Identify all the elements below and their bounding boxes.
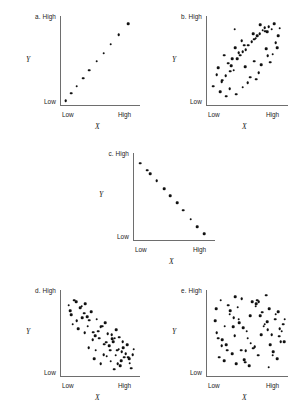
data-point <box>104 321 107 324</box>
panel-b-xlabel-high: High <box>266 112 279 118</box>
data-point <box>99 326 102 329</box>
data-point <box>95 318 98 321</box>
data-point <box>97 330 100 333</box>
data-point <box>224 325 227 328</box>
data-point <box>278 335 281 338</box>
data-point <box>221 339 224 342</box>
data-point <box>224 74 227 77</box>
data-point <box>260 333 263 336</box>
data-point <box>245 330 248 333</box>
data-point <box>266 321 269 324</box>
panel-e: e. High Low Y Low High X <box>148 278 296 408</box>
data-point <box>219 90 222 93</box>
data-point <box>132 353 135 356</box>
panel-c-xlabel-low: Low <box>135 247 147 253</box>
data-point <box>248 364 251 367</box>
data-point <box>223 54 226 57</box>
data-point <box>239 54 242 57</box>
data-point <box>214 320 217 323</box>
data-point <box>223 359 226 362</box>
data-point <box>130 367 133 370</box>
panel-a-label-high: a. High <box>4 14 56 20</box>
data-point <box>266 328 269 331</box>
data-point <box>275 41 278 44</box>
data-point <box>277 34 280 37</box>
panel-c-ylabel-low: Low <box>77 234 129 240</box>
data-point <box>257 354 260 357</box>
data-point <box>259 24 262 27</box>
data-point <box>102 52 105 55</box>
panel-a-points <box>61 16 140 105</box>
data-point <box>274 318 277 321</box>
data-point <box>233 334 236 337</box>
panel-e-ylabel-low: Low <box>150 370 202 376</box>
data-point <box>234 296 237 299</box>
data-point <box>81 316 84 319</box>
data-point <box>86 315 89 318</box>
data-point <box>243 358 246 361</box>
panel-c-y-axis-title: Y <box>99 191 103 199</box>
data-point <box>72 323 75 326</box>
panel-e-points <box>207 290 288 376</box>
data-point <box>109 349 112 352</box>
data-point <box>112 340 115 343</box>
panel-d-points <box>61 290 140 376</box>
data-point <box>113 337 116 340</box>
data-point <box>69 309 72 312</box>
data-point <box>90 310 93 313</box>
data-point <box>246 81 249 84</box>
panel-b-points <box>207 16 288 105</box>
data-point <box>124 352 127 355</box>
data-point <box>109 360 112 363</box>
data-point <box>232 69 235 72</box>
data-point <box>240 349 243 352</box>
data-point <box>282 323 285 326</box>
data-point <box>91 339 94 342</box>
data-point <box>122 346 125 349</box>
data-point <box>254 305 257 308</box>
data-point <box>243 44 246 47</box>
data-point <box>114 354 117 357</box>
data-point <box>234 47 237 50</box>
data-point <box>132 348 135 351</box>
data-point <box>115 328 118 331</box>
data-point <box>110 333 113 336</box>
data-point <box>245 350 248 353</box>
data-point <box>267 366 270 369</box>
data-point <box>98 337 101 340</box>
data-point <box>258 72 261 75</box>
panel-e-label-high: e. High <box>150 288 202 294</box>
data-point <box>88 69 91 72</box>
data-point <box>226 349 229 352</box>
data-point <box>128 362 131 365</box>
data-point <box>230 65 233 68</box>
panel-e-xlabel-low: Low <box>208 383 220 389</box>
data-point <box>233 28 236 31</box>
data-point <box>64 99 67 102</box>
data-point <box>259 315 262 318</box>
panel-b-axes <box>206 16 288 106</box>
data-point <box>246 337 249 340</box>
data-point <box>215 308 218 311</box>
data-point <box>276 47 279 50</box>
data-point <box>235 93 238 96</box>
data-point <box>271 333 274 336</box>
data-point <box>249 315 252 318</box>
data-point <box>70 314 73 317</box>
data-point <box>236 57 239 60</box>
data-point <box>275 313 278 316</box>
data-point <box>265 48 268 51</box>
panel-d-y-axis-title: Y <box>26 328 30 336</box>
data-point <box>106 333 109 336</box>
data-point <box>105 341 108 344</box>
data-point <box>76 320 79 323</box>
data-point <box>231 57 234 60</box>
data-point <box>126 344 129 347</box>
data-point <box>80 305 83 308</box>
data-point <box>232 316 235 319</box>
data-point <box>120 359 123 362</box>
data-point <box>149 173 152 176</box>
data-point <box>225 344 228 347</box>
data-point <box>269 344 272 347</box>
data-point <box>146 169 149 172</box>
